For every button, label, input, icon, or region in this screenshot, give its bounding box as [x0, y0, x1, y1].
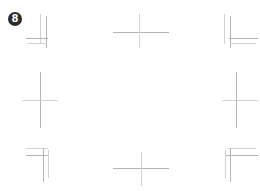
cross-mark-top-center	[113, 14, 169, 48]
cross-mark-middle-left	[22, 72, 62, 128]
corner-mark-bottom-right	[216, 144, 258, 182]
page-number-badge: 8	[8, 12, 22, 26]
page-number-badge-label: 8	[12, 14, 19, 24]
cross-mark-bottom-center	[113, 152, 169, 186]
corner-mark-top-left	[26, 14, 66, 50]
scanned-page-canvas: 8	[0, 0, 260, 191]
corner-mark-bottom-left	[26, 144, 66, 182]
cross-mark-middle-right	[220, 72, 260, 128]
corner-mark-top-right	[216, 14, 258, 50]
